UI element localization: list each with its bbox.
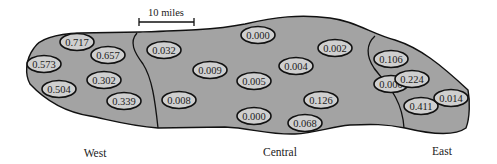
region-label-east: East [432, 145, 453, 157]
region-label-west: West [84, 147, 108, 159]
value-oval: 0.224 [395, 71, 429, 88]
value-oval: 0.411 [404, 98, 438, 115]
value-label: 0.224 [400, 74, 424, 85]
value-oval: 0.005 [237, 73, 271, 90]
region-labels: WestCentralEast [84, 145, 453, 159]
value-label: 0.009 [198, 65, 222, 76]
value-label: 0.411 [409, 101, 432, 112]
value-oval: 0.000 [237, 108, 271, 125]
value-label: 0.302 [92, 75, 116, 86]
value-label: 0.005 [242, 76, 266, 87]
value-oval: 0.504 [42, 81, 76, 98]
value-label: 0.014 [439, 93, 463, 104]
value-oval: 0.014 [434, 90, 468, 107]
value-label: 0.339 [112, 96, 136, 107]
value-oval: 0.126 [304, 92, 338, 109]
value-oval: 0.009 [193, 62, 227, 79]
value-label: 0.002 [323, 43, 347, 54]
value-oval: 0.573 [27, 56, 61, 73]
value-label: 0.126 [309, 95, 333, 106]
region-label-central: Central [263, 146, 297, 158]
value-oval: 0.657 [91, 47, 125, 64]
scale-bar-label: 10 miles [148, 7, 184, 18]
value-label: 0.000 [246, 30, 270, 41]
value-label: 0.657 [96, 50, 120, 61]
value-oval: 0.002 [318, 40, 352, 57]
value-label: 0.504 [47, 84, 71, 95]
value-oval: 0.000 [241, 27, 275, 44]
value-oval: 0.004 [279, 58, 313, 75]
value-oval: 0.339 [107, 93, 141, 110]
value-label: 0.004 [284, 61, 308, 72]
value-label: 0.032 [152, 45, 176, 56]
value-oval: 0.032 [147, 42, 181, 59]
value-label: 0.106 [379, 54, 403, 65]
value-label: 0.008 [167, 95, 191, 106]
region-map: 10 miles 0.7170.6570.5730.3020.5040.3390… [0, 0, 497, 164]
value-oval: 0.302 [87, 72, 121, 89]
value-label: 0.573 [32, 59, 56, 70]
value-oval: 0.008 [162, 92, 196, 109]
value-oval: 0.717 [60, 34, 94, 51]
scale-bar: 10 miles [139, 7, 194, 26]
value-label: 0.717 [65, 37, 89, 48]
value-oval: 0.106 [374, 51, 408, 68]
value-label: 0.068 [293, 118, 317, 129]
value-oval: 0.068 [288, 115, 322, 132]
value-label: 0.000 [242, 111, 266, 122]
